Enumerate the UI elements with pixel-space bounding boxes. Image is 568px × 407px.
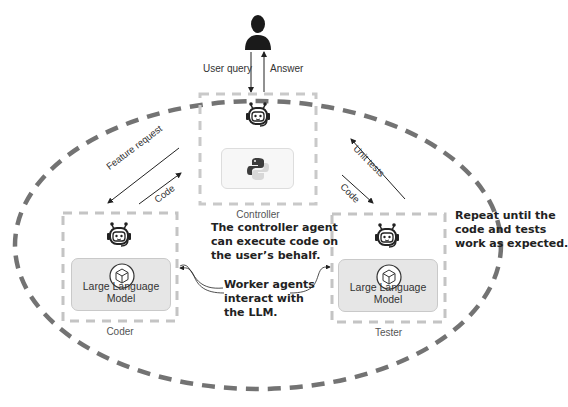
tester-llm-box: Large Language Model: [338, 259, 438, 312]
user-query-label: User query: [203, 63, 252, 74]
answer-label: Answer: [270, 63, 303, 74]
tester-caption: Tester: [332, 327, 445, 338]
robot-agent-icon: [106, 221, 132, 249]
worker-note-curve-to-coder: [180, 268, 224, 293]
controller-caption: Controller: [200, 209, 316, 220]
repeat-note: Repeat until the code and tests work as …: [455, 209, 568, 251]
controller-note-line: can execute code on: [211, 235, 338, 249]
controller-note-line: The controller agent: [211, 221, 338, 235]
coder-llm-box: Large Language Model: [71, 258, 171, 311]
robot-agent-icon: [374, 222, 400, 250]
user-silhouette-icon: [244, 14, 272, 50]
coder-caption: Coder: [63, 326, 177, 337]
repeat-note-line: work as expected.: [455, 237, 568, 251]
worker-note: Worker agents interact with the LLM.: [224, 278, 315, 320]
python-runtime-box: [221, 148, 294, 189]
controller-note: The controller agent can execute code on…: [211, 221, 338, 263]
tester-llm-label: Large Language Model: [339, 281, 437, 305]
repeat-note-line: Repeat until the: [455, 209, 568, 223]
coder-llm-label: Large Language Model: [72, 280, 170, 304]
python-icon: [247, 157, 269, 181]
worker-note-line: Worker agents: [224, 278, 315, 292]
worker-note-arrow-left: [180, 265, 223, 288]
worker-note-line: interact with: [224, 292, 315, 306]
worker-note-line: the LLM.: [224, 306, 315, 320]
repeat-note-line: code and tests: [455, 223, 568, 237]
robot-agent-icon: [245, 101, 271, 129]
controller-note-line: the user’s behalf.: [211, 249, 338, 263]
